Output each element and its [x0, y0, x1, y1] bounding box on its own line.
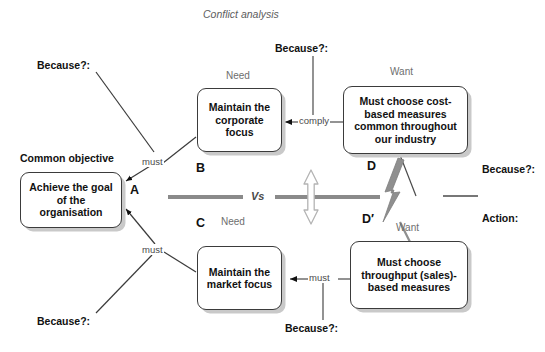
node-d-want[interactable]: Must choose cost-based measures common t…: [343, 86, 468, 154]
node-dprime-text: Must choose throughput (sales)-based mea…: [356, 256, 462, 294]
node-letter-dprime: D′: [362, 212, 374, 226]
vs-label: Vs: [247, 190, 268, 202]
node-letter-c: C: [196, 216, 205, 230]
conflict-double-arrow-icon: [304, 170, 318, 224]
diagram-title: Conflict analysis: [203, 8, 279, 20]
vs-divider-bar: [168, 195, 380, 199]
caption-common-objective: Common objective: [20, 152, 114, 164]
node-c-text: Maintain the market focus: [203, 266, 276, 291]
node-letter-d: D: [367, 159, 376, 173]
assumption-prompt-bottom-left: Because?:: [37, 315, 90, 327]
assumption-prompt-right-upper: Because?:: [482, 163, 535, 175]
caption-want-d: Want: [390, 66, 413, 77]
edge-a-to-c: [126, 209, 196, 272]
node-d-text: Must choose cost-based measures common t…: [349, 95, 462, 145]
node-letter-a: A: [130, 183, 139, 197]
assumption-prompt-top-center: Because?:: [275, 42, 328, 54]
assumption-prompt-bottom-center: Because?:: [285, 322, 338, 334]
node-dprime-want[interactable]: Must choose throughput (sales)-based mea…: [350, 241, 468, 309]
caption-need-c: Need: [221, 216, 245, 227]
node-c-need[interactable]: Maintain the market focus: [197, 246, 282, 310]
edge-assumption-right-upper: [400, 155, 416, 196]
node-letter-b: B: [196, 161, 205, 175]
connector-label-a-c: must: [141, 244, 164, 255]
action-prompt-right-lower: Action:: [482, 212, 518, 224]
connector-label-a-b: must: [141, 156, 164, 167]
assumption-prompt-top-left: Because?:: [37, 59, 90, 71]
node-a-common-objective[interactable]: Achieve the goal of the organisation: [20, 172, 122, 228]
conflict-analysis-diagram: Conflict analysis Because?: Because?: Be…: [0, 0, 545, 352]
caption-need-b: Need: [226, 70, 250, 81]
edge-assumption-top-left: [96, 72, 154, 152]
node-b-text: Maintain the corporate focus: [203, 101, 276, 139]
node-b-need[interactable]: Maintain the corporate focus: [197, 88, 282, 152]
caption-want-dprime: Want: [396, 222, 419, 233]
edge-assumption-bottom-left: [96, 255, 152, 313]
connector-label-c-dprime: must: [308, 272, 331, 283]
connector-label-b-d: comply: [298, 115, 330, 126]
node-a-text: Achieve the goal of the organisation: [26, 181, 116, 219]
